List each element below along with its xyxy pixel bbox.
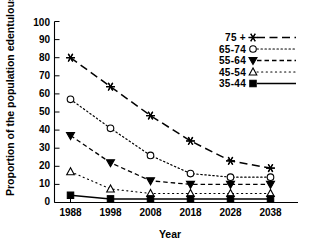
series-line: [71, 99, 271, 177]
y-tick-label: 20: [39, 160, 51, 171]
data-point-marker-open-circle: [250, 46, 257, 53]
data-point-marker-filled-square: [250, 80, 256, 86]
x-tick-label: 2008: [139, 207, 162, 218]
data-point-marker-star: [266, 164, 275, 172]
y-tick-label: 0: [44, 196, 50, 207]
data-point-marker-open-up-triangle: [249, 68, 257, 75]
series-line: [71, 195, 271, 199]
x-axis-tick-labels: 1988 1998 2008 2018 2028 2038: [59, 207, 282, 218]
y-tick-label: 80: [39, 52, 51, 63]
data-point-marker-filled-down-triangle: [249, 58, 257, 65]
y-tick-label: 40: [39, 124, 51, 135]
series-line: [71, 172, 271, 194]
x-tick-label: 2028: [219, 207, 242, 218]
series-65-74: [67, 96, 274, 180]
data-point-marker-filled-square: [227, 196, 233, 202]
x-tick-label: 1998: [99, 207, 122, 218]
data-point-marker-open-circle: [147, 152, 154, 159]
data-point-marker-filled-square: [107, 196, 113, 202]
data-point-marker-filled-square: [67, 192, 73, 198]
y-tick-label: 90: [39, 34, 51, 45]
data-point-marker-filled-square: [187, 196, 193, 202]
data-point-marker-open-circle: [67, 96, 74, 103]
series-55-64: [67, 133, 275, 189]
x-axis-title: Year: [159, 228, 181, 240]
y-axis-title: Proportion of the population edentulous …: [4, 0, 16, 196]
x-tick-label: 2018: [179, 207, 202, 218]
x-tick-label: 2038: [259, 207, 282, 218]
y-tick-label: 70: [39, 70, 51, 81]
data-point-marker-open-circle: [227, 174, 234, 181]
legend-label-65-74: 65-74: [219, 44, 246, 55]
legend-label-45-54: 45-54: [219, 67, 246, 78]
legend-label-55-64: 55-64: [219, 55, 246, 66]
data-point-marker-open-circle: [267, 174, 274, 181]
legend: 75 + 65-74 55-64 45-54 35-44: [219, 32, 296, 89]
y-tick-label: 10: [39, 178, 51, 189]
y-axis-ticks: [55, 22, 60, 203]
line-chart: Proportion of the population edentulous …: [0, 0, 309, 243]
series-45-54: [67, 168, 275, 197]
data-point-marker-open-up-triangle: [107, 185, 115, 192]
data-point-marker-star: [249, 34, 258, 42]
data-point-marker-filled-square: [147, 196, 153, 202]
data-point-marker-filled-down-triangle: [67, 133, 75, 140]
y-tick-label: 60: [39, 88, 51, 99]
data-point-marker-filled-square: [267, 196, 273, 202]
data-point-marker-filled-down-triangle: [147, 178, 155, 185]
legend-label-35-44: 35-44: [219, 78, 246, 89]
legend-sample-swatches: [249, 34, 296, 87]
y-tick-label: 30: [39, 142, 51, 153]
legend-label-75-plus: 75 +: [225, 32, 246, 43]
data-point-marker-open-circle: [107, 125, 114, 132]
data-point-marker-filled-down-triangle: [107, 160, 115, 167]
chart-figure: Proportion of the population edentulous …: [0, 0, 309, 243]
y-axis-tick-labels: 100 90 80 70 60 50 40 30 20 10 0: [33, 17, 50, 207]
x-tick-label: 1988: [59, 207, 82, 218]
data-point-marker-open-circle: [187, 170, 194, 177]
y-tick-label: 100: [33, 17, 50, 28]
y-tick-label: 50: [39, 106, 51, 117]
data-point-marker-star: [226, 157, 235, 165]
data-point-marker-filled-down-triangle: [267, 181, 275, 188]
data-point-marker-open-up-triangle: [67, 168, 75, 175]
